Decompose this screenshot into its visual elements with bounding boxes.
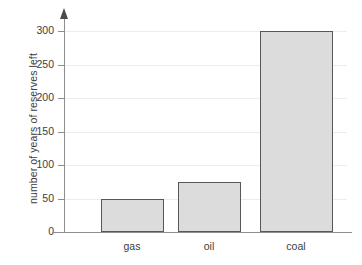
y-axis-tick-label-wrap: 200: [26, 92, 54, 103]
y-axis-tick-label: 0: [26, 226, 54, 237]
y-axis-tick-label: 100: [26, 159, 54, 170]
y-axis-tick-label-wrap: 150: [26, 126, 54, 137]
y-axis-tick-label: 150: [26, 126, 54, 137]
bar-coal: [260, 31, 333, 232]
y-axis-tick-label: 200: [26, 92, 54, 103]
bar-chart: number of years of reserves left 3002502…: [0, 0, 362, 265]
x-axis-label-coal: coal: [256, 240, 336, 252]
plot-area: 300250200150100500 gasoilcoal: [0, 0, 362, 265]
y-axis-tick-label-wrap: 50: [26, 193, 54, 204]
y-axis-line: [64, 18, 65, 233]
y-axis-tick-label-wrap: 300: [26, 25, 54, 36]
y-axis-tick-label-wrap: 100: [26, 159, 54, 170]
x-axis-label-gas: gas: [92, 240, 172, 252]
y-axis-tick-label-wrap: 0: [26, 226, 54, 237]
x-axis-line: [52, 232, 352, 233]
bar-gas: [101, 199, 164, 233]
y-axis-arrow-icon: [60, 8, 68, 19]
y-axis-tick-label-wrap: 250: [26, 59, 54, 70]
y-axis-tick-label: 50: [26, 193, 54, 204]
bar-oil: [178, 182, 241, 232]
y-axis-tick-label: 300: [26, 25, 54, 36]
y-axis-tick-label: 250: [26, 59, 54, 70]
x-axis-label-oil: oil: [169, 240, 249, 252]
